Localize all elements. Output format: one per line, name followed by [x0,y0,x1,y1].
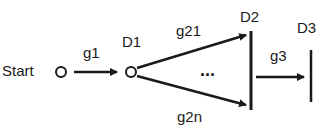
start-label: Start [2,62,35,79]
d2-label: D2 [240,8,259,25]
edge-g21-arrow [137,35,246,68]
d3-label: D3 [297,19,316,36]
d1-label: D1 [122,33,141,50]
edge-g2n-arrow [137,76,246,105]
edge-g21-label: g21 [176,22,201,39]
edge-g3-label: g3 [270,47,287,64]
edge-g2n-label: g2n [177,108,202,125]
d1-node [126,67,136,77]
edge-ellipsis: ... [200,60,215,80]
start-node [56,67,66,77]
flow-diagram: Start g1 D1 g21 g2n ... D2 g3 D3 [0,0,321,136]
edge-g1-label: g1 [83,44,100,61]
